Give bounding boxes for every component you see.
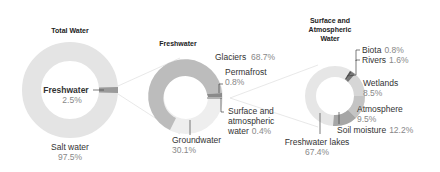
label-surface-l1: Surface and [228,106,274,116]
water-distribution-chart: Total Water Freshwater 2.5% Salt water 9… [0,0,440,172]
label-freshwater-lakes: Freshwater lakes [285,137,350,147]
value-salt-water: 97.5% [58,152,83,162]
chart-title-freshwater: Freshwater [159,40,197,47]
chart-title-l3: Water [320,35,339,42]
label-freshwater: Freshwater [43,85,89,95]
label-atmosphere: Atmosphere [357,104,403,114]
value-glaciers: 68.7% [251,52,276,62]
value-atmosphere: 9.5% [357,114,377,124]
value-freshwater: 2.5% [62,95,82,105]
label-groundwater: Groundwater [172,135,221,145]
donut-surface-atmospheric: Surface and Atmospheric Water Biota0.8% … [285,17,414,157]
label-biota: Biota0.8% [362,45,404,55]
donut-total-water: Total Water Freshwater 2.5% Salt water 9… [32,27,119,162]
value-wetlands: 8.5% [363,88,383,98]
value-groundwater: 30.1% [172,145,197,155]
label-surface-l3: water0.4% [227,126,272,136]
value-permafrost: 0.8% [225,77,245,87]
chart-title-l1: Surface and [310,17,350,24]
donut-freshwater: Freshwater Glaciers 68.7% Permafrost 0.8… [148,40,275,155]
leader-biota [356,50,360,61]
value-freshwater-lakes: 67.4% [305,147,330,157]
chart-title-total-water: Total Water [51,27,89,34]
chart-title-l2: Atmospheric [309,26,352,34]
label-permafrost: Permafrost [225,67,267,77]
label-surface-l2: atmospheric [228,116,275,126]
label-wetlands: Wetlands [363,78,398,88]
label-soil-moisture: Soil moisture12.2% [337,125,414,135]
label-rivers: Rivers1.6% [362,55,409,65]
label-glaciers: Glaciers [215,52,246,62]
label-salt-water: Salt water [51,142,89,152]
